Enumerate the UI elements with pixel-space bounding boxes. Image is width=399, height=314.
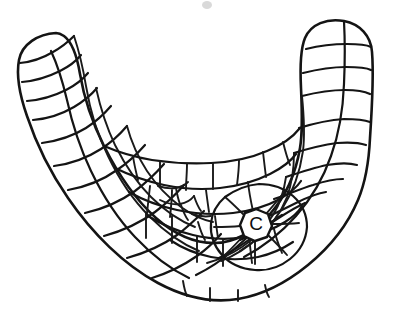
radial-suture-e xyxy=(271,223,299,224)
small-plate-edge-4 xyxy=(194,196,201,211)
mid-tick-1 xyxy=(147,186,150,213)
inner-margin-tick-6 xyxy=(263,152,266,177)
central-plate-label: C xyxy=(249,213,263,234)
inner-margin-tick-7 xyxy=(283,142,290,165)
inner-margin-tick-3 xyxy=(186,164,187,190)
stray-speck-icon xyxy=(202,1,212,9)
crescent-plate-figure: C xyxy=(0,0,399,314)
radial-suture-nw xyxy=(225,197,243,214)
radial-suture-w xyxy=(214,226,240,227)
inner-margin-group xyxy=(104,128,300,190)
inner-margin-tick-5 xyxy=(237,160,239,185)
central-plate-group: C xyxy=(240,209,272,241)
scan-artifact-group xyxy=(202,1,212,9)
small-plate-edge-7 xyxy=(206,190,209,212)
